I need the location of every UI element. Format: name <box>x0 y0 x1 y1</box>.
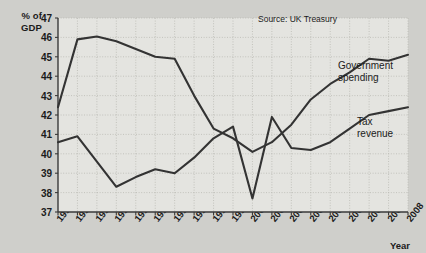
series-label-tax-revenue: Tax revenue <box>357 116 393 139</box>
source-note: Source: UK Treasury <box>258 14 337 26</box>
series-label-government-spending: Government spending <box>338 60 393 83</box>
x-axis-title: Year <box>390 240 410 251</box>
